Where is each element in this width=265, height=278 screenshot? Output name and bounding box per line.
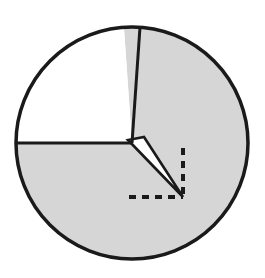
figure-root [0, 0, 265, 278]
sector-diagram [0, 0, 265, 278]
